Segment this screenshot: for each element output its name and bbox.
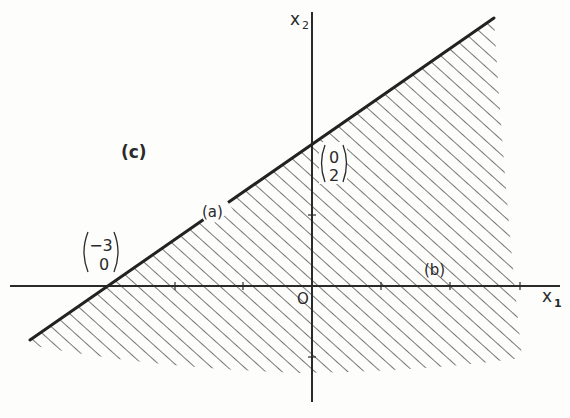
x1-axis-label: x 1: [542, 286, 562, 310]
feasible-region-diagram: (c) (a) (b) O x 1 x 2 −3 0 0 2: [0, 0, 570, 418]
x2-label-main: x: [290, 9, 300, 29]
constraint-label-b: (b): [424, 261, 445, 279]
x1-label-main: x: [542, 286, 552, 306]
constraint-label-a: (a): [202, 203, 223, 221]
point-a-top: −3: [89, 236, 113, 255]
point-b-top: 0: [329, 148, 339, 167]
x2-label-sub: 2: [302, 19, 309, 32]
origin-label: O: [297, 290, 309, 308]
point-b-bottom: 2: [329, 166, 339, 185]
point-label-0-2: 0 2: [319, 142, 347, 185]
point-label-minus3-0: −3 0: [84, 232, 118, 274]
x2-axis-label: x 2: [290, 9, 309, 32]
panel-label: (c): [121, 142, 147, 162]
x1-label-sub: 1: [554, 297, 562, 310]
hatched-region: [0, 0, 570, 418]
point-a-bottom: 0: [99, 255, 109, 274]
